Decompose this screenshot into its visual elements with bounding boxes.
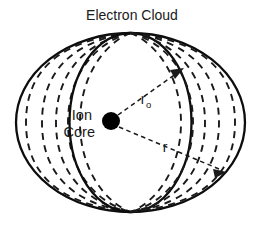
ion-core-label: Ion Core xyxy=(64,107,95,140)
figure-title: Electron Cloud xyxy=(86,7,178,23)
ion-core-dot xyxy=(102,112,120,130)
electron-cloud-svg: Electron Cloud ro xyxy=(0,0,265,235)
radius-outer-label: r xyxy=(163,139,168,155)
radius-vector-r: r xyxy=(119,127,227,178)
electron-cloud-figure: Electron Cloud ro xyxy=(0,0,265,235)
outer-sphere-outline xyxy=(16,33,245,212)
ion-core-label-line2: Core xyxy=(64,124,95,140)
meridians-right xyxy=(131,33,236,212)
ion-core-label-line1: Ion xyxy=(72,107,92,123)
radius-vector-r-sub-o: ro xyxy=(118,68,184,115)
radius-inner-label: ro xyxy=(141,91,151,110)
